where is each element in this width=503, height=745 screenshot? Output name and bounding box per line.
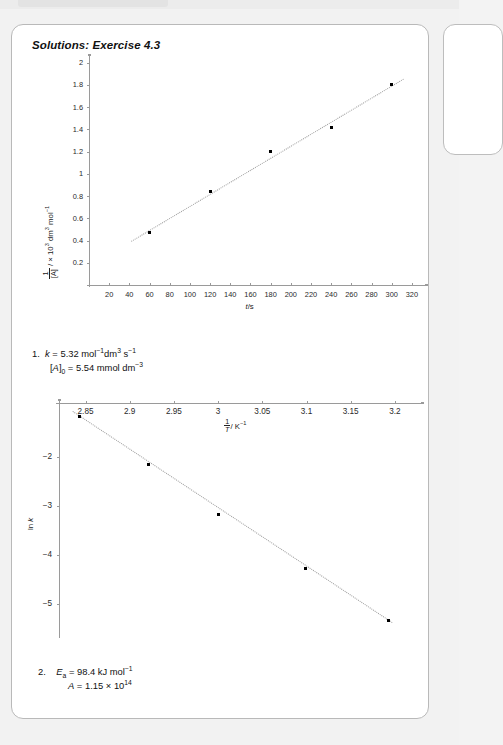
y-tick bbox=[57, 604, 60, 605]
x-tick-label: 220 bbox=[300, 290, 322, 299]
answer-1-number: 1. bbox=[32, 348, 40, 359]
x-tick bbox=[86, 401, 87, 404]
y-tick bbox=[57, 555, 60, 556]
data-point bbox=[78, 415, 81, 418]
x-tick-label: 320 bbox=[401, 290, 423, 299]
x-tick-label: 20 bbox=[98, 290, 120, 299]
x-tick bbox=[170, 283, 171, 286]
x-tick-label: 300 bbox=[381, 290, 403, 299]
y-tick bbox=[87, 152, 90, 153]
x-tick bbox=[174, 401, 175, 404]
trendline-2 bbox=[73, 411, 393, 623]
x-tick bbox=[311, 283, 312, 286]
x-tick-label: 3.2 bbox=[381, 407, 409, 416]
chart-arrhenius-plot: 2.852.92.9533.053.13.153.21T/ K−1−2−3−4−… bbox=[12, 381, 430, 651]
answer-2-line-2: A = 1.15 × 1014 bbox=[68, 679, 132, 691]
x-axis-arrow bbox=[425, 284, 428, 286]
x-tick bbox=[218, 401, 219, 404]
x-tick-label: 180 bbox=[260, 290, 282, 299]
y-tick bbox=[87, 218, 90, 219]
x-axis bbox=[56, 403, 422, 404]
x-tick bbox=[210, 283, 211, 286]
x-tick-label: 120 bbox=[199, 290, 221, 299]
x-tick-label: 3.1 bbox=[293, 407, 321, 416]
x-tick bbox=[351, 401, 352, 404]
x-tick-label: 3.05 bbox=[248, 407, 276, 416]
data-point bbox=[148, 231, 151, 234]
x-tick bbox=[129, 283, 130, 286]
y-tick-label: 2 bbox=[12, 58, 83, 67]
y-tick bbox=[87, 85, 90, 86]
x-tick bbox=[291, 283, 292, 286]
x-tick-label: 60 bbox=[139, 290, 161, 299]
x-tick bbox=[190, 283, 191, 286]
x-tick bbox=[130, 401, 131, 404]
y-tick bbox=[57, 506, 60, 507]
y-tick-label: 0.8 bbox=[12, 192, 83, 201]
x-tick bbox=[331, 283, 332, 286]
x-tick-label: 100 bbox=[179, 290, 201, 299]
y-axis-label: 1[A] / × 103 dm3 mol−1 bbox=[42, 206, 58, 279]
x-tick-label: 2.95 bbox=[160, 407, 188, 416]
x-tick bbox=[412, 283, 413, 286]
y-axis bbox=[89, 55, 90, 287]
x-tick bbox=[392, 283, 393, 286]
x-tick-label: 140 bbox=[219, 290, 241, 299]
x-axis bbox=[87, 285, 426, 286]
x-tick bbox=[230, 283, 231, 286]
x-tick-label: 260 bbox=[340, 290, 362, 299]
y-tick-label: −4 bbox=[12, 550, 52, 559]
y-axis bbox=[59, 400, 60, 638]
data-point bbox=[217, 513, 220, 516]
x-tick bbox=[351, 283, 352, 286]
answer-1-line-2: [A]0 = 5.54 mmol dm−3 bbox=[50, 361, 143, 375]
data-point bbox=[147, 463, 150, 466]
x-axis-arrow bbox=[421, 402, 424, 404]
x-tick bbox=[150, 283, 151, 286]
y-tick-label: 1.4 bbox=[12, 125, 83, 134]
data-point bbox=[269, 150, 272, 153]
y-axis-label: ln k bbox=[26, 518, 35, 530]
x-tick bbox=[109, 283, 110, 286]
y-tick bbox=[87, 241, 90, 242]
y-tick bbox=[87, 107, 90, 108]
x-tick-label: 160 bbox=[239, 290, 261, 299]
y-tick-label: 1.8 bbox=[12, 80, 83, 89]
x-tick-label: 2.9 bbox=[116, 407, 144, 416]
y-tick bbox=[87, 196, 90, 197]
top-strip bbox=[0, 0, 459, 9]
y-tick bbox=[87, 63, 90, 64]
x-tick-label: 200 bbox=[280, 290, 302, 299]
x-axis-label: t/s bbox=[246, 302, 254, 311]
y-tick bbox=[87, 129, 90, 130]
x-tick bbox=[372, 283, 373, 286]
x-tick bbox=[307, 401, 308, 404]
y-tick-label: −2 bbox=[12, 452, 52, 461]
data-point bbox=[330, 126, 333, 129]
chart-second-order-plot: 0.20.40.60.811.21.41.61.8220406080100120… bbox=[12, 47, 430, 337]
x-tick bbox=[250, 283, 251, 286]
y-tick-label: −5 bbox=[12, 599, 52, 608]
x-tick-label: 3 bbox=[204, 407, 232, 416]
y-tick bbox=[87, 174, 90, 175]
data-point bbox=[387, 619, 390, 622]
answer-2-line-1: 2. Ea = 98.4 kJ mol−1 bbox=[38, 665, 133, 679]
y-tick-label: 1.2 bbox=[12, 147, 83, 156]
x-tick-label: 3.15 bbox=[337, 407, 365, 416]
x-axis-label: 1T/ K−1 bbox=[224, 418, 246, 434]
adjacent-page-card bbox=[443, 24, 503, 155]
data-point bbox=[304, 567, 307, 570]
x-tick bbox=[271, 283, 272, 286]
solutions-card: Solutions: Exercise 4.3 0.20.40.60.811.2… bbox=[11, 24, 429, 719]
top-strip-tab bbox=[18, 0, 168, 7]
x-tick-label: 80 bbox=[159, 290, 181, 299]
y-axis-arrow bbox=[58, 399, 61, 401]
y-tick bbox=[57, 457, 60, 458]
x-tick bbox=[262, 401, 263, 404]
x-tick-label: 280 bbox=[361, 290, 383, 299]
data-point bbox=[209, 190, 212, 193]
x-tick-label: 240 bbox=[320, 290, 342, 299]
trendline-1 bbox=[131, 78, 404, 241]
answer-1-line-1: 1. k = 5.32 mol−1dm3 s−1 bbox=[32, 347, 136, 359]
